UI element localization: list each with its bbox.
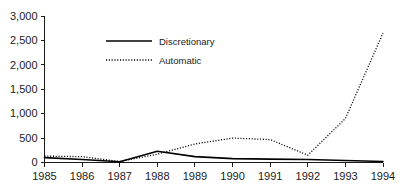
legend-label-discretionary: Discretionary xyxy=(159,36,215,47)
x-tick-label-1988: 1988 xyxy=(145,170,169,182)
x-tick-label-1987: 1987 xyxy=(107,170,131,182)
y-tick-label-500: 500 xyxy=(19,132,37,144)
x-tick-label-1989: 1989 xyxy=(183,170,207,182)
y-tick-label-2000: 2,000 xyxy=(10,59,38,71)
y-tick-label-2500: 2,500 xyxy=(10,34,38,46)
x-tick-label-1993: 1993 xyxy=(333,170,357,182)
chart-container: 05001,0001,5002,0002,5003,000 1985198619… xyxy=(0,0,408,189)
y-tick-label-1500: 1,500 xyxy=(10,83,38,95)
line-chart: 05001,0001,5002,0002,5003,000 1985198619… xyxy=(0,0,408,189)
x-tick-label-1992: 1992 xyxy=(296,170,320,182)
x-tick-label-1994: 1994 xyxy=(371,170,395,182)
x-tick-label-1986: 1986 xyxy=(70,170,94,182)
y-tick-label-0: 0 xyxy=(31,156,37,168)
legend-label-automatic: Automatic xyxy=(159,55,201,66)
y-tick-label-1000: 1,000 xyxy=(10,107,38,119)
x-tick-label-1990: 1990 xyxy=(220,170,244,182)
x-tick-label-1991: 1991 xyxy=(258,170,282,182)
y-tick-label-3000: 3,000 xyxy=(10,10,38,22)
x-tick-label-1985: 1985 xyxy=(32,170,56,182)
